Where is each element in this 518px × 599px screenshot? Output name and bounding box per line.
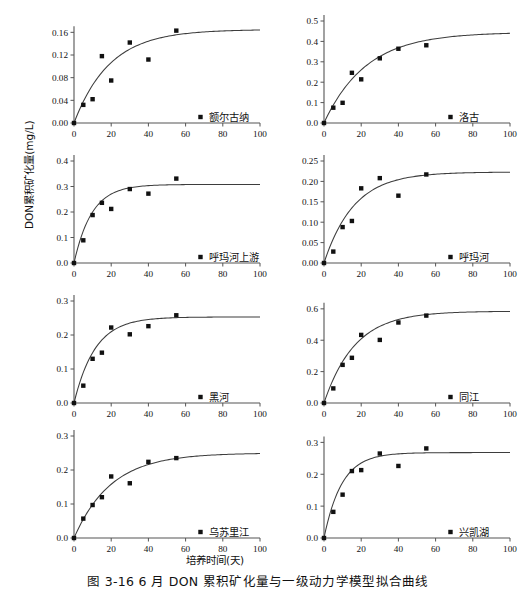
axes <box>74 155 260 263</box>
legend-marker <box>448 255 452 259</box>
data-point <box>90 357 94 361</box>
x-tick-label: 40 <box>394 129 404 139</box>
axes <box>324 15 510 123</box>
x-tick-label: 0 <box>72 409 77 419</box>
y-tick-label: 0.1 <box>57 499 69 509</box>
data-point <box>81 383 85 387</box>
data-point <box>340 101 344 105</box>
data-point <box>340 225 344 229</box>
legend-label: 额尔古纳 <box>209 111 249 123</box>
subplot-8: 0.00.10.20.3020406080100兴凯湖 <box>268 423 518 560</box>
axes <box>74 295 260 403</box>
x-tick-label: 40 <box>144 544 154 554</box>
y-tick-label: 0.1 <box>57 233 69 243</box>
subplot-6: 0.00.20.40.6020406080100同江 <box>268 288 518 425</box>
x-ticks: 020406080100 <box>72 263 268 279</box>
x-ticks: 020406080100 <box>322 538 518 554</box>
data-point <box>424 446 428 450</box>
x-ticks: 020406080100 <box>322 123 518 139</box>
data-point <box>109 325 113 329</box>
y-ticks: 0.00.10.20.3 <box>57 431 74 543</box>
fit-curve <box>324 172 510 263</box>
y-tick-label: 0.5 <box>307 16 319 26</box>
data-point <box>424 43 428 47</box>
x-tick-label: 40 <box>144 269 154 279</box>
x-tick-label: 60 <box>181 269 191 279</box>
legend-marker <box>198 115 202 119</box>
data-point <box>378 56 382 60</box>
y-tick-label: 0.25 <box>302 156 318 166</box>
x-tick-label: 20 <box>357 544 367 554</box>
data-point <box>350 469 354 473</box>
data-point <box>340 492 344 496</box>
legend-label: 呼玛河 <box>459 252 489 263</box>
x-tick-label: 20 <box>107 129 117 139</box>
subplot-3: 0.00.10.20.30.4020406080100呼玛河上游 <box>18 148 268 285</box>
y-tick-label: 0.0 <box>307 398 319 408</box>
y-ticks: 0.00.10.20.3 <box>307 438 324 544</box>
data-point <box>331 106 335 110</box>
legend-marker <box>198 255 202 259</box>
y-tick-label: 0.2 <box>307 367 319 377</box>
x-tick-label: 80 <box>218 129 228 139</box>
data-point <box>100 350 104 354</box>
data-point <box>100 201 104 205</box>
x-tick-label: 80 <box>468 269 478 279</box>
x-tick-label: 60 <box>431 269 441 279</box>
legend-label: 呼玛河上游 <box>209 251 259 263</box>
x-ticks: 020406080100 <box>322 263 518 279</box>
data-point <box>128 40 132 44</box>
y-ticks: 0.000.040.080.120.16 <box>52 28 74 129</box>
y-tick-label: 0.0 <box>57 398 69 408</box>
x-axis-title: 培养时间(天) <box>186 552 244 567</box>
x-tick-label: 0 <box>72 129 77 139</box>
legend-label: 兴凯湖 <box>459 526 489 538</box>
x-tick-label: 100 <box>503 544 517 554</box>
data-point <box>174 176 178 180</box>
data-point <box>81 238 85 242</box>
axes <box>74 430 260 538</box>
x-tick-label: 20 <box>357 129 367 139</box>
y-tick-label: 0.1 <box>307 98 319 108</box>
y-tick-label: 0.1 <box>57 364 69 374</box>
x-tick-label: 100 <box>253 269 267 279</box>
data-point <box>378 451 382 455</box>
y-ticks: 0.00.10.20.30.4 <box>57 156 74 268</box>
data-point <box>359 468 363 472</box>
x-tick-label: 80 <box>218 409 228 419</box>
data-point <box>424 172 428 176</box>
data-point <box>72 121 76 125</box>
y-tick-label: 0.00 <box>302 258 318 268</box>
x-tick-label: 0 <box>322 544 327 554</box>
x-tick-label: 0 <box>322 269 327 279</box>
data-point <box>322 261 326 265</box>
y-axis-title: DON累积矿化量(mg/L) <box>21 59 43 229</box>
x-tick-label: 60 <box>181 409 191 419</box>
data-point <box>100 54 104 58</box>
axes <box>324 155 510 263</box>
y-tick-label: 0.05 <box>302 238 318 248</box>
data-point <box>350 71 354 75</box>
data-point <box>322 121 326 125</box>
data-point <box>109 207 113 211</box>
data-point <box>378 338 382 342</box>
legend-marker <box>448 395 452 399</box>
x-tick-label: 0 <box>322 129 327 139</box>
data-point <box>424 313 428 317</box>
x-tick-label: 60 <box>431 544 441 554</box>
y-tick-label: 0.4 <box>307 336 319 346</box>
data-point <box>331 510 335 514</box>
data-point <box>81 516 85 520</box>
fit-curve <box>324 453 510 538</box>
legend-marker <box>448 530 452 534</box>
y-tick-label: 0.0 <box>307 533 319 543</box>
legend-label: 乌苏里江 <box>209 526 249 538</box>
x-tick-label: 20 <box>107 269 117 279</box>
legend-label: 洛古 <box>459 111 479 123</box>
x-tick-label: 40 <box>394 409 404 419</box>
x-tick-label: 0 <box>72 269 77 279</box>
x-tick-label: 20 <box>357 269 367 279</box>
data-point <box>146 460 150 464</box>
x-tick-label: 40 <box>394 269 404 279</box>
legend-marker <box>198 395 202 399</box>
